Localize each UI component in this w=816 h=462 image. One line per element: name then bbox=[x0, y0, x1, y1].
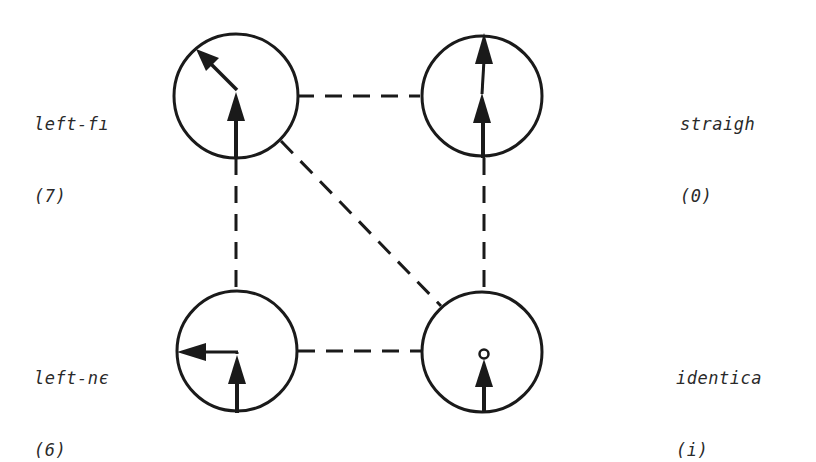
arrow-up-then-left-icon bbox=[177, 343, 246, 413]
node-code: (i) bbox=[676, 438, 762, 462]
arrow-up-stop-icon bbox=[475, 350, 493, 414]
edges bbox=[236, 96, 484, 351]
node-identical bbox=[422, 292, 542, 413]
arrow-up-then-up-icon bbox=[473, 33, 493, 158]
arrow-up-then-up-left-icon bbox=[196, 49, 245, 158]
node-left-near bbox=[177, 291, 297, 413]
node-straight bbox=[422, 33, 542, 158]
edge-left-far-identical bbox=[281, 141, 441, 306]
node-left-far bbox=[174, 34, 298, 158]
node-code: (6) bbox=[34, 438, 109, 462]
